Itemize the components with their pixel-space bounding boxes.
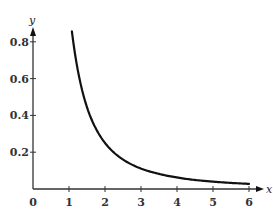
x-axis-label: x: [266, 183, 273, 196]
y-tick-label: 0.8: [10, 36, 29, 49]
x-axis-arrow-icon: [256, 186, 264, 192]
chart: x 0123456 y 0.20.40.60.8: [0, 0, 273, 219]
x-tick-label: 0: [29, 196, 37, 209]
x-axis: x 0123456: [29, 183, 273, 209]
x-tick-label: 6: [245, 196, 253, 209]
x-tick-label: 1: [65, 196, 73, 209]
x-tick-label: 2: [101, 196, 109, 209]
y-axis: y 0.20.40.60.8: [10, 14, 36, 189]
x-tick-label: 4: [173, 196, 181, 209]
y-axis-label: y: [28, 14, 36, 27]
y-tick-label: 0.2: [10, 146, 29, 159]
curve-line: [72, 31, 249, 184]
y-axis-arrow-icon: [30, 27, 36, 36]
y-tick-label: 0.4: [10, 109, 29, 122]
y-tick-label: 0.6: [10, 73, 29, 86]
x-tick-label: 5: [209, 196, 217, 209]
x-tick-label: 3: [137, 196, 145, 209]
